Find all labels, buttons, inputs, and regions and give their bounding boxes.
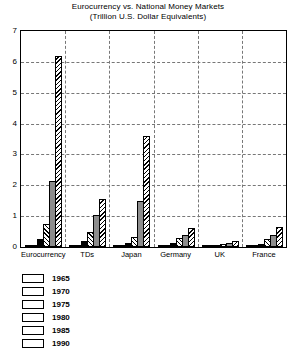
legend-item: 1965 bbox=[22, 272, 152, 285]
bar-group-bars bbox=[109, 31, 153, 247]
bar-group bbox=[198, 31, 242, 247]
legend-item: 1980 bbox=[22, 311, 152, 324]
bar-group-bars bbox=[242, 31, 286, 247]
bar-group bbox=[154, 31, 198, 247]
y-axis-tick-label: 7 bbox=[0, 27, 17, 35]
bar-group bbox=[109, 31, 153, 247]
legend-label: 1975 bbox=[52, 300, 70, 309]
x-axis-category-label: France bbox=[242, 250, 286, 259]
bar-group-bars bbox=[154, 31, 198, 247]
bar-group-bars bbox=[65, 31, 109, 247]
bar-1990 bbox=[188, 228, 195, 247]
legend-label: 1970 bbox=[52, 287, 70, 296]
x-axis-category-label: Eurocurrency bbox=[21, 250, 65, 259]
legend-item: 1985 bbox=[22, 324, 152, 337]
plot-area bbox=[20, 30, 287, 248]
y-axis-tick-label: 4 bbox=[0, 120, 17, 128]
chart-subtitle: (Trillion U.S. Dollar Equivalents) bbox=[0, 12, 296, 22]
legend-label: 1990 bbox=[52, 339, 70, 348]
y-axis-tick-label: 6 bbox=[0, 58, 17, 66]
chart-legend: 196519701975198019851990 bbox=[22, 272, 152, 350]
bar-group bbox=[242, 31, 286, 247]
chart-title: Eurocurrency vs. National Money Markets bbox=[0, 2, 296, 12]
bar-1990 bbox=[276, 227, 283, 247]
x-axis-category-label: Japan bbox=[109, 250, 153, 259]
bar-group-bars bbox=[198, 31, 242, 247]
legend-swatch-1985 bbox=[22, 326, 44, 335]
legend-item: 1975 bbox=[22, 298, 152, 311]
legend-label: 1985 bbox=[52, 326, 70, 335]
legend-item: 1990 bbox=[22, 337, 152, 350]
legend-swatch-1980 bbox=[22, 313, 44, 322]
bar-group bbox=[21, 31, 65, 247]
y-axis-tick-label: 2 bbox=[0, 181, 17, 189]
legend-label: 1965 bbox=[52, 274, 70, 283]
y-axis-tick-label: 0 bbox=[0, 243, 17, 251]
chart-title-block: Eurocurrency vs. National Money Markets … bbox=[0, 2, 296, 22]
y-axis-tick-label: 5 bbox=[0, 89, 17, 97]
bar-group-bars bbox=[21, 31, 65, 247]
x-axis-category-label: UK bbox=[198, 250, 242, 259]
bar-1990 bbox=[99, 199, 106, 247]
legend-label: 1980 bbox=[52, 313, 70, 322]
y-axis-tick-label: 3 bbox=[0, 150, 17, 158]
legend-swatch-1975 bbox=[22, 300, 44, 309]
legend-swatch-1970 bbox=[22, 287, 44, 296]
bar-1990 bbox=[232, 241, 239, 247]
x-axis-category-label: Germany bbox=[154, 250, 198, 259]
bar-1990 bbox=[55, 56, 62, 247]
bar-group bbox=[65, 31, 109, 247]
legend-swatch-1965 bbox=[22, 274, 44, 283]
bar-1990 bbox=[143, 136, 150, 247]
chart-root: Eurocurrency vs. National Money Markets … bbox=[0, 0, 296, 357]
y-axis-tick-label: 1 bbox=[0, 212, 17, 220]
legend-swatch-1990 bbox=[22, 339, 44, 348]
legend-item: 1970 bbox=[22, 285, 152, 298]
x-axis-category-label: TDs bbox=[65, 250, 109, 259]
